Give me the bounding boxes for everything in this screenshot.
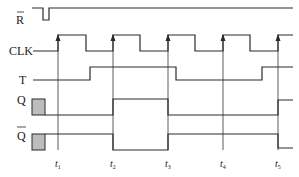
svg-text:R: R	[16, 13, 24, 27]
waveform-clk	[33, 35, 293, 51]
time-guides	[58, 35, 278, 150]
waveform-q	[45, 99, 293, 115]
waveform-t	[33, 67, 293, 80]
time-label-t2: t2	[110, 158, 116, 170]
signal-label-q: Q	[17, 93, 26, 107]
q-undefined-initial-state	[32, 99, 45, 115]
signal-label-q-bar: Q	[17, 127, 26, 143]
signal-label-t: T	[19, 73, 27, 87]
signal-label-clk: CLK	[9, 44, 33, 58]
time-label-t5: t5	[275, 158, 281, 170]
time-label-t1: t1	[55, 158, 61, 170]
signal-label-r-bar: R	[16, 12, 24, 27]
svg-text:Q: Q	[17, 129, 26, 143]
time-label-t4: t4	[220, 158, 226, 170]
waveform-r-bar	[32, 8, 293, 20]
waveform-q-bar	[45, 134, 293, 150]
q-bar-undefined-initial-state	[32, 134, 45, 150]
timing-diagram: R CLK T Q Q t1 t2 t3 t4 t5	[0, 0, 299, 177]
time-labels: t1 t2 t3 t4 t5	[55, 158, 281, 170]
time-label-t3: t3	[165, 158, 171, 170]
